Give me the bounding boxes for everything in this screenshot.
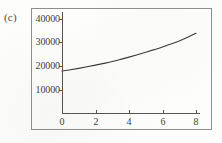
axis-lines [62,12,200,113]
x-axis-label-0: 0 [55,117,69,127]
y-axis-label-10000: 10000 [30,85,60,95]
x-axis-label-6: 6 [156,117,170,127]
y-axis-label-40000: 40000 [30,14,60,24]
figure-panel: (c) 40000 30000 20000 10000 0 2 4 6 8 [0,0,222,143]
x-axis-label-4: 4 [122,117,136,127]
x-axis-label-2: 2 [89,117,103,127]
y-axis-label-20000: 20000 [30,61,60,71]
y-axis-label-30000: 30000 [30,37,60,47]
x-axis-label-8: 8 [189,117,203,127]
data-series-curve [62,33,196,71]
